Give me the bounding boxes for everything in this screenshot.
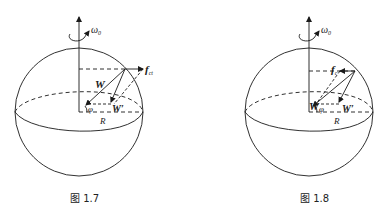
latitude-angle-arc bbox=[85, 106, 87, 112]
latitude-label: φ bbox=[319, 104, 324, 114]
radius-label: R bbox=[333, 116, 340, 126]
latitude-label: φ bbox=[88, 104, 93, 114]
figures-canvas: ω0 fct W W′ φ R ω0 fc W W′ φ R bbox=[0, 0, 385, 212]
omega-label: ω0 bbox=[91, 24, 101, 36]
equator-front bbox=[245, 112, 373, 131]
radius-label: R bbox=[99, 116, 106, 126]
force-label: fc bbox=[331, 63, 338, 76]
weight-prime-label: W′ bbox=[342, 103, 354, 114]
equator-front bbox=[15, 112, 143, 131]
weight-label: W bbox=[95, 78, 106, 90]
omega-label: ω0 bbox=[321, 24, 331, 36]
figure-1-7 bbox=[15, 17, 143, 176]
gravity-arrow bbox=[313, 71, 355, 106]
apparent-weight-arrow bbox=[111, 69, 125, 102]
gravity-arrow bbox=[86, 69, 125, 105]
figure-1-8-labels: ω0 fc W W′ φ R bbox=[309, 24, 354, 126]
figure-1-8-caption: 图 1.8 bbox=[300, 190, 329, 205]
force-label: fct bbox=[145, 63, 153, 76]
weight-prime-label: W′ bbox=[112, 103, 124, 114]
figure-1-8 bbox=[245, 17, 373, 176]
figure-1-7-labels: ω0 fct W W′ φ R bbox=[88, 24, 153, 126]
figure-1-7-caption: 图 1.7 bbox=[70, 190, 99, 205]
apparent-weight-arrow bbox=[339, 71, 355, 102]
